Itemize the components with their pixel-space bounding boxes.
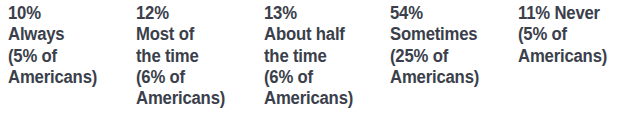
stat-label-line: Americans): [136, 88, 225, 109]
stat-percent-line: 10%: [8, 3, 97, 24]
stat-label-line: Americans): [390, 67, 479, 88]
stat-percent-line: 54%: [390, 3, 479, 24]
stat-column-most-of-the-time: 12%Most ofthe time(6% ofAmericans): [136, 3, 225, 109]
stat-label-line: Sometimes: [390, 24, 479, 45]
stat-percent-line: 11% Never: [518, 3, 607, 24]
stat-label-line: Americans): [8, 67, 97, 88]
stat-label-line: (6% of: [264, 67, 353, 88]
stat-label-line: (5% of: [8, 46, 97, 67]
stat-column-always: 10%Always(5% ofAmericans): [8, 3, 97, 88]
stat-label-line: Most of: [136, 24, 225, 45]
stat-label-line: About half: [264, 24, 353, 45]
stat-label-line: (5% of: [518, 24, 607, 45]
stat-column-never: 11% Never(5% ofAmericans): [518, 3, 607, 67]
stat-label-line: the time: [264, 46, 353, 67]
stat-percent-line: 12%: [136, 3, 225, 24]
stat-label-line: (25% of: [390, 46, 479, 67]
stat-label-line: Always: [8, 24, 97, 45]
stat-column-sometimes: 54%Sometimes(25% ofAmericans): [390, 3, 479, 88]
stat-percent-line: 13%: [264, 3, 353, 24]
stat-column-about-half-the-time: 13%About halfthe time(6% ofAmericans): [264, 3, 353, 109]
stat-label-line: (6% of: [136, 67, 225, 88]
statistic-callout-row: 10%Always(5% ofAmericans)12%Most ofthe t…: [0, 0, 621, 119]
stat-label-line: the time: [136, 46, 225, 67]
stat-label-line: Americans): [264, 88, 353, 109]
stat-label-line: Americans): [518, 46, 607, 67]
